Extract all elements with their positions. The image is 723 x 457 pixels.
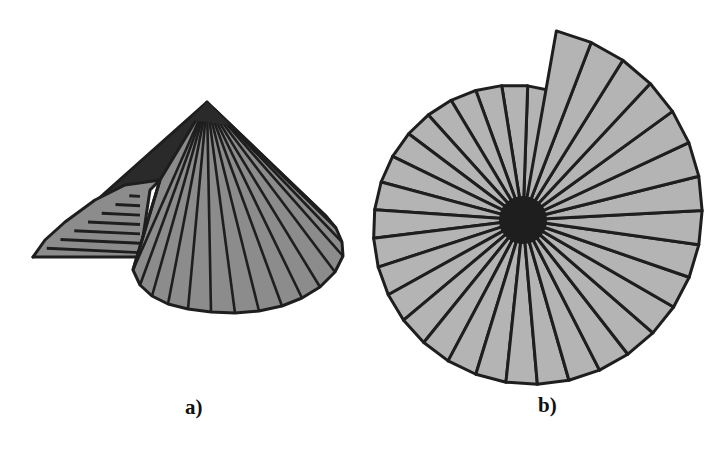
- spiral-diagram: [374, 31, 702, 384]
- caption-b: b): [538, 393, 557, 418]
- caption-a: a): [185, 395, 203, 420]
- figure-canvas: [0, 0, 723, 457]
- cone-diagram: [33, 102, 343, 313]
